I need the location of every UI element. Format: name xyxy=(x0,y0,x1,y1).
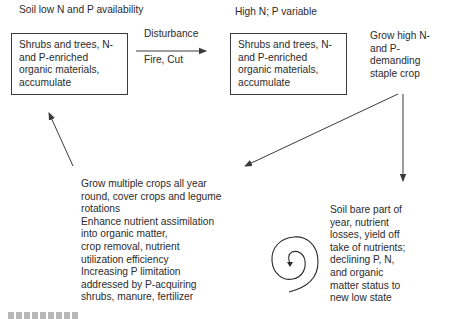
connector-arrows xyxy=(0,0,449,319)
arrow-to-grow-multiple xyxy=(245,94,398,166)
spiral-arrowhead xyxy=(287,262,293,267)
figure-caption-fragment xyxy=(8,312,78,319)
spiral-icon xyxy=(272,237,318,292)
arrow-to-left-box xyxy=(49,113,73,166)
